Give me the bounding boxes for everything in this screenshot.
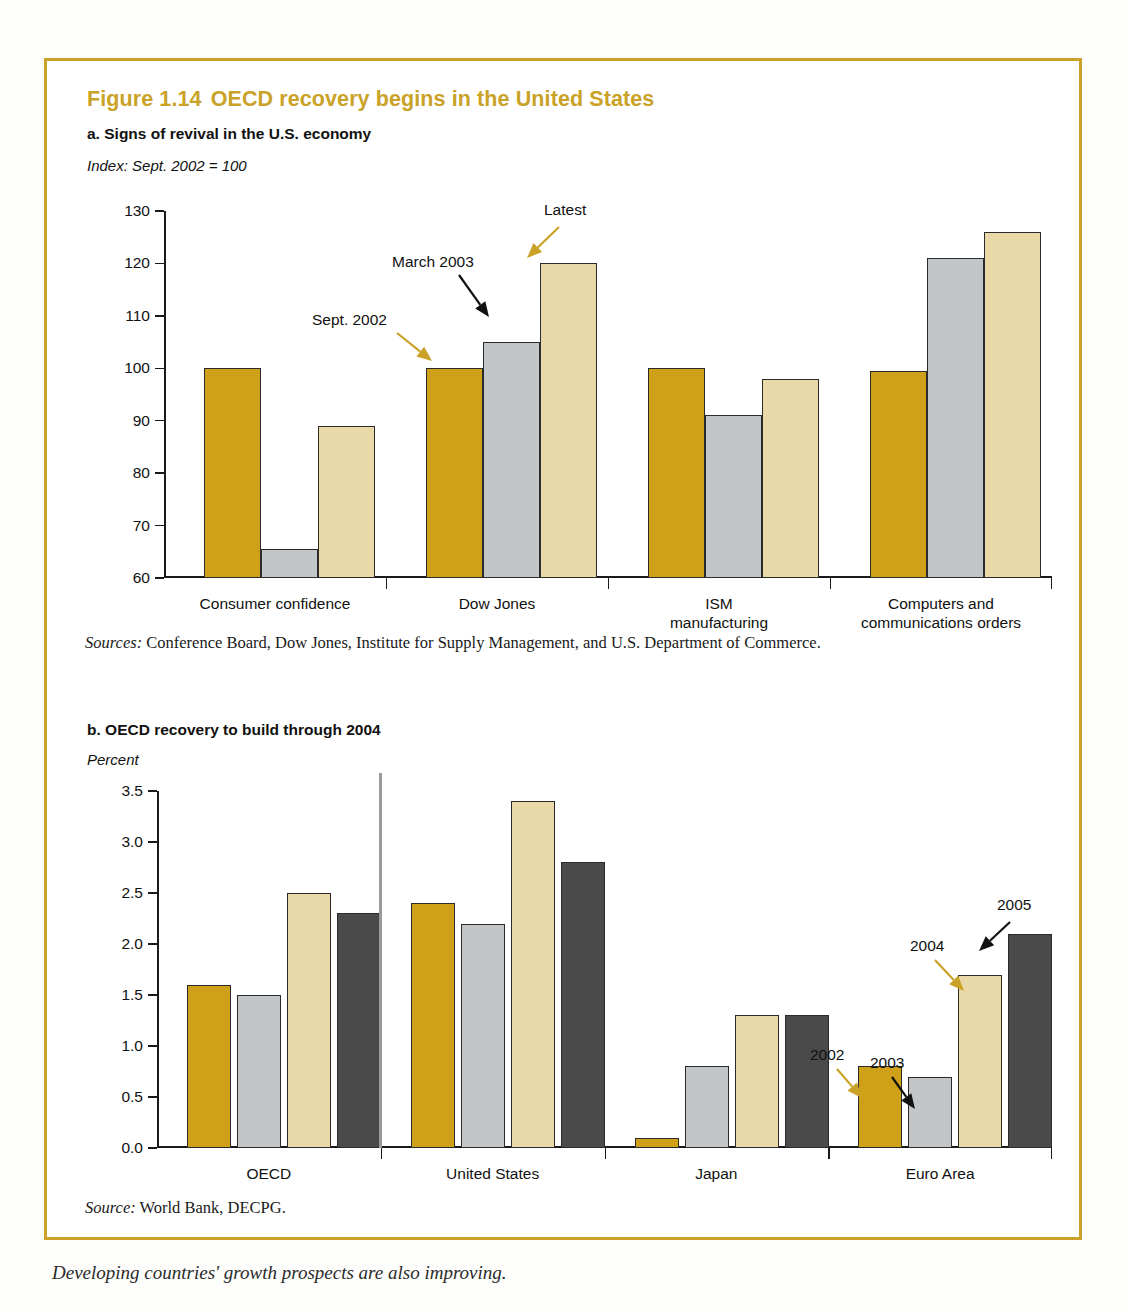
y-tick [148,994,157,995]
bar-computers-and-communications-orders-sept-2002 [870,371,927,578]
x-category-label: Euro Area [828,1164,1052,1183]
y-axis-line [164,211,166,578]
panel-b-source-text: World Bank, DECPG. [136,1198,286,1217]
panel-a-title: a. Signs of revival in the U.S. economy [87,125,371,143]
category-separator [605,1148,606,1159]
annotation-label-sept-2002: Sept. 2002 [312,311,387,329]
annotation-arrow-2005 [964,907,1025,966]
y-tick-label: 2.5 [79,884,143,902]
y-tick-label: 90 [86,412,150,430]
y-tick [155,525,164,526]
bar-dow-jones-march-2003 [483,342,540,578]
bar-united-states-2005 [561,862,605,1148]
y-axis-top-cap [155,210,164,211]
panel-a-source-label: Sources: [85,633,142,652]
bar-dow-jones-sept-2002 [426,368,483,578]
y-tick-label: 3.0 [79,833,143,851]
bar-consumer-confidence-sept-2002 [204,368,261,578]
y-tick-label: 100 [86,359,150,377]
panel-a-plot: 60708090100110120130Consumer confidenceD… [164,211,1052,578]
panel-b-title: b. OECD recovery to build through 2004 [87,721,381,739]
y-tick [155,577,164,578]
y-tick [148,1045,157,1046]
category-separator [386,578,387,589]
x-category-label: OECD [157,1164,381,1183]
bar-ism-manufacturing-latest [762,379,819,578]
bar-united-states-2002 [411,903,455,1148]
y-tick-label: 1.0 [79,1037,143,1055]
y-tick-label: 0.5 [79,1088,143,1106]
bar-oecd-2005 [337,913,381,1148]
y-tick [155,263,164,264]
panel-b-axis-unit: Percent [87,751,139,768]
y-tick [148,943,157,944]
bar-consumer-confidence-latest [318,426,375,578]
x-category-label: Dow Jones [386,594,608,613]
figure-title: Figure 1.14OECD recovery begins in the U… [87,87,654,112]
y-tick [148,892,157,893]
panel-b-source-label: Source: [85,1198,136,1217]
y-tick-label: 1.5 [79,986,143,1004]
bar-japan-2002 [635,1138,679,1148]
caption-below-figure: Developing countries' growth prospects a… [52,1262,1082,1284]
x-category-label: Consumer confidence [164,594,386,613]
annotation-arrow-sept-2002 [382,318,447,376]
category-separator [830,578,831,589]
panel-b-source: Source: World Bank, DECPG. [85,1198,286,1218]
panel-a-source: Sources: Conference Board, Dow Jones, In… [85,633,821,653]
panel-a-source-text: Conference Board, Dow Jones, Institute f… [142,633,821,652]
bar-ism-manufacturing-march-2003 [705,415,762,578]
bar-japan-2004 [735,1015,779,1148]
bar-oecd-2002 [187,985,231,1148]
annotation-arrow-march-2003 [444,260,504,332]
bar-oecd-2004 [287,893,331,1148]
panel-a-axis-unit: Index: Sept. 2002 = 100 [87,157,247,174]
bar-ism-manufacturing-sept-2002 [648,368,705,578]
figure-frame: Figure 1.14OECD recovery begins in the U… [44,58,1082,1240]
bar-united-states-2003 [461,924,505,1148]
y-tick-label: 80 [86,464,150,482]
x-axis-right-cap [1051,1148,1052,1159]
bar-computers-and-communications-orders-latest [984,232,1041,578]
y-tick-label: 110 [86,307,150,325]
x-category-label: ISMmanufacturing [608,594,830,632]
y-tick-label: 3.5 [79,782,143,800]
figure-page: Figure 1.14OECD recovery begins in the U… [0,0,1128,1312]
x-axis-right-cap [1051,578,1052,589]
y-tick [155,315,164,316]
y-tick-label: 0.0 [79,1139,143,1157]
category-separator [381,1148,382,1159]
oecd-aggregate-divider [379,773,382,1148]
figure-number: Figure 1.14 [87,87,202,111]
figure-title-text: OECD recovery begins in the United State… [211,87,655,111]
y-tick-label: 60 [86,569,150,587]
y-tick [148,841,157,842]
y-tick-label: 130 [86,202,150,220]
y-tick [155,472,164,473]
annotation-arrow-latest [512,212,574,273]
y-tick-label: 2.0 [79,935,143,953]
bar-computers-and-communications-orders-march-2003 [927,258,984,578]
category-separator [828,1148,829,1159]
annotation-arrow-2003 [877,1062,930,1124]
y-axis-top-cap [148,790,157,791]
x-category-label: United States [381,1164,605,1183]
bar-dow-jones-latest [540,263,597,578]
annotation-arrow-2002 [822,1054,877,1113]
bar-oecd-2003 [237,995,281,1148]
y-axis-line [157,791,159,1148]
y-tick [155,420,164,421]
x-category-label: Japan [605,1164,829,1183]
x-category-label: Computers andcommunications orders [830,594,1052,632]
y-tick-label: 70 [86,517,150,535]
bar-japan-2003 [685,1066,729,1148]
y-tick [148,1147,157,1148]
y-tick [148,1096,157,1097]
y-tick [155,368,164,369]
bar-consumer-confidence-march-2003 [261,549,318,578]
y-tick-label: 120 [86,254,150,272]
category-separator [608,578,609,589]
bar-united-states-2004 [511,801,555,1148]
